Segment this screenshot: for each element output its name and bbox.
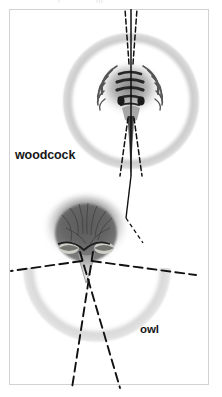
diagram-canvas	[0, 0, 222, 397]
owl-panel	[11, 176, 196, 388]
woodcock-eye-right	[137, 97, 144, 106]
woodcock-panel	[61, 9, 201, 176]
species-label-owl: owl	[140, 323, 159, 335]
species-label-woodcock: woodcock	[15, 148, 75, 162]
owl-panel-connector-axis	[126, 176, 131, 218]
figure-root: r m	[0, 0, 222, 397]
owl-panel-connector-dash	[126, 218, 143, 243]
woodcock-eye-left	[117, 97, 124, 106]
